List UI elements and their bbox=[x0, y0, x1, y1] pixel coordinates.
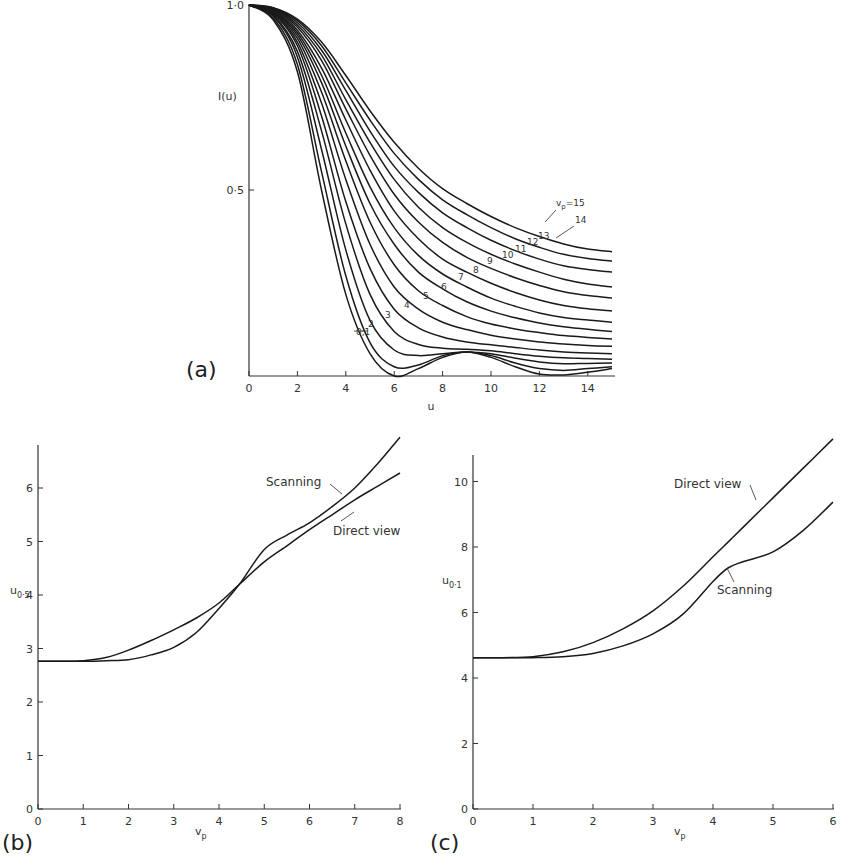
b-x-axis-label: vp bbox=[195, 825, 207, 841]
a-label-vp15: vp=15 bbox=[556, 198, 585, 211]
b-y-tick-label: 5 bbox=[26, 536, 33, 549]
a-x-tick-label: 2 bbox=[294, 382, 301, 395]
a-x-tick-label: 8 bbox=[439, 382, 446, 395]
b-y-tick-label: 3 bbox=[26, 643, 33, 656]
b-x-ticks: 012345678 bbox=[35, 804, 404, 828]
b-x-tick-label: 2 bbox=[125, 815, 132, 828]
a-curves bbox=[249, 5, 612, 377]
a-x-tick-label: 0 bbox=[246, 382, 253, 395]
b-x-tick-label: 5 bbox=[261, 815, 268, 828]
c-y-ticks: 0246810 bbox=[454, 476, 478, 817]
a-label-9: 9 bbox=[487, 256, 493, 266]
a-curve-9 bbox=[249, 5, 612, 322]
b-curve-scanning bbox=[38, 437, 400, 661]
a-x-tick-label: 10 bbox=[484, 382, 498, 395]
b-y-tick-label: 6 bbox=[26, 482, 33, 495]
a-x-axis-label: u bbox=[428, 400, 435, 413]
c-x-ticks: 0123456 bbox=[470, 804, 837, 828]
a-x-tick-label: 12 bbox=[532, 382, 546, 395]
c-x-tick-label: 6 bbox=[830, 815, 837, 828]
c-x-axis-label: vp bbox=[674, 825, 686, 841]
a-label-13: 13 bbox=[538, 231, 549, 241]
a-panel-label: (a) bbox=[186, 357, 217, 382]
a-label-14: 14 bbox=[575, 215, 587, 225]
c-label-direct-view: Direct view bbox=[674, 477, 742, 491]
figure-canvas: 1·0 0·5 I(u) 02468101214 u (a) 0,1 2 3 4… bbox=[0, 0, 845, 857]
c-y-tick-label: 4 bbox=[461, 672, 468, 685]
a-label-12: 12 bbox=[527, 237, 538, 247]
c-y-tick-label: 10 bbox=[454, 476, 468, 489]
a-curve-14 bbox=[249, 5, 612, 261]
b-label-scanning: Scanning bbox=[266, 475, 321, 489]
c-x-tick-label: 3 bbox=[650, 815, 657, 828]
c-y-tick-label: 8 bbox=[461, 541, 468, 554]
a-curve-4 bbox=[249, 5, 612, 359]
panel-b-u05-chart: 012345678 0123456 u0·5 vp (b) Scanning D… bbox=[2, 437, 404, 855]
c-panel-label: (c) bbox=[430, 830, 459, 855]
c-x-tick-label: 1 bbox=[530, 815, 537, 828]
c-x-tick-label: 0 bbox=[470, 815, 477, 828]
b-x-tick-label: 8 bbox=[397, 815, 404, 828]
panel-a-intensity-chart: 1·0 0·5 I(u) 02468101214 u (a) 0,1 2 3 4… bbox=[186, 0, 615, 413]
b-panel-label: (b) bbox=[2, 830, 33, 855]
b-x-tick-label: 0 bbox=[35, 815, 42, 828]
c-y-tick-label: 6 bbox=[461, 607, 468, 620]
b-x-tick-label: 6 bbox=[306, 815, 313, 828]
b-y-axis-label: u0·5 bbox=[10, 584, 30, 600]
b-y-tick-label: 2 bbox=[26, 696, 33, 709]
b-label-direct-view: Direct view bbox=[333, 524, 401, 538]
c-curve-scanning bbox=[473, 502, 833, 658]
c-y-axis-label: u0·1 bbox=[442, 574, 462, 590]
b-curves bbox=[38, 437, 400, 661]
b-x-tick-label: 1 bbox=[80, 815, 87, 828]
c-x-tick-label: 5 bbox=[770, 815, 777, 828]
b-y-tick-label: 1 bbox=[26, 750, 33, 763]
panel-c-u01-chart: 0123456 0246810 u0·1 vp (c) Direct view … bbox=[430, 439, 837, 855]
c-x-tick-label: 4 bbox=[710, 815, 717, 828]
c-leader-scanning bbox=[727, 568, 734, 582]
b-x-tick-label: 7 bbox=[351, 815, 358, 828]
a-leader-14 bbox=[556, 226, 574, 238]
a-label-6: 6 bbox=[441, 282, 447, 292]
b-leader-scanning bbox=[330, 484, 342, 494]
a-y-tick-label-05: 0·5 bbox=[227, 184, 245, 197]
b-y-tick-label: 0 bbox=[26, 803, 33, 816]
a-leader-vp15 bbox=[545, 210, 556, 222]
c-y-tick-label: 2 bbox=[461, 738, 468, 751]
a-label-8: 8 bbox=[473, 265, 479, 275]
a-label-11: 11 bbox=[515, 244, 526, 254]
b-leader-direct bbox=[341, 512, 354, 521]
c-y-tick-label: 0 bbox=[461, 803, 468, 816]
a-label-5: 5 bbox=[423, 291, 429, 301]
a-label-7: 7 bbox=[458, 272, 464, 282]
c-leader-direct bbox=[750, 485, 756, 500]
b-curve-direct-view bbox=[38, 473, 400, 661]
a-label-3: 3 bbox=[385, 310, 391, 320]
c-label-scanning: Scanning bbox=[717, 583, 772, 597]
a-x-tick-label: 4 bbox=[342, 382, 349, 395]
a-curve-12 bbox=[249, 5, 612, 287]
b-y-ticks: 0123456 bbox=[26, 482, 43, 816]
a-x-tick-label: 14 bbox=[581, 382, 595, 395]
c-curves bbox=[473, 439, 833, 658]
b-x-tick-label: 3 bbox=[170, 815, 177, 828]
c-x-tick-label: 2 bbox=[590, 815, 597, 828]
a-curve-6 bbox=[249, 5, 612, 346]
a-y-tick-label-1: 1·0 bbox=[227, 0, 245, 12]
a-x-tick-label: 6 bbox=[391, 382, 398, 395]
b-x-tick-label: 4 bbox=[216, 815, 223, 828]
a-label-4: 4 bbox=[404, 300, 410, 310]
a-y-axis-label: I(u) bbox=[218, 90, 237, 103]
a-label-10: 10 bbox=[502, 250, 514, 260]
a-label-2: 2 bbox=[368, 319, 374, 329]
